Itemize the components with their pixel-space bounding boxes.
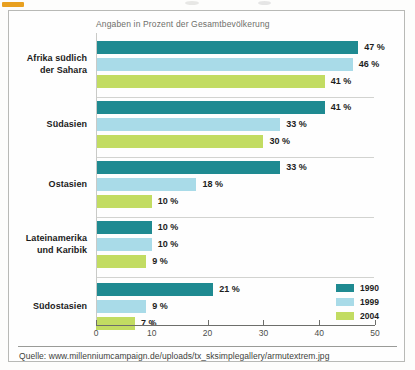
x-axis-tick [96, 320, 97, 325]
group-separator [96, 217, 374, 218]
bar-value-label: 41 % [331, 76, 352, 86]
figure-frame: Angaben in Prozent der Gesamtbevölkerung… [8, 10, 405, 362]
bar-1990 [96, 221, 152, 234]
bar-2004 [96, 135, 263, 148]
scan-artifact-smudge-right [258, 1, 271, 5]
category-label-line: Afrika südlich [9, 53, 87, 65]
group-separator [96, 277, 374, 278]
legend-swatch [336, 312, 354, 320]
bar-value-label: 7 % [141, 318, 157, 328]
bar-1999 [96, 238, 152, 251]
plot-area: Afrika südlichder Sahara47 %46 %41 %Süda… [9, 33, 404, 323]
legend-swatch [336, 298, 354, 306]
bar-line: 47 % [96, 41, 396, 54]
legend-label: 2004 [360, 311, 379, 321]
x-axis-tick-label: 0 [94, 328, 99, 338]
bar-line: 33 % [96, 161, 396, 174]
legend-label: 1990 [360, 283, 379, 293]
group-separator [96, 97, 374, 98]
x-axis-tick-label: 30 [259, 328, 268, 338]
x-axis-tick [208, 320, 209, 325]
x-axis-tick [152, 320, 153, 325]
bar-value-label: 21 % [219, 284, 240, 294]
y-axis-line [96, 33, 97, 325]
bar-1990 [96, 41, 358, 54]
bar-1999 [96, 300, 146, 313]
x-axis-tick [375, 320, 376, 325]
bar-value-label: 46 % [359, 59, 380, 69]
bar-line: 10 % [96, 238, 396, 251]
category-label-line: Südasien [9, 119, 87, 131]
bar-1999 [96, 178, 196, 191]
scan-artifact-smudge-left [185, 1, 199, 5]
bar-value-label: 10 % [158, 222, 179, 232]
bar-value-label: 10 % [158, 196, 179, 206]
category-label: Südostasien [9, 301, 87, 313]
source-divider [18, 346, 397, 347]
category-label-line: und Karibik [9, 245, 87, 257]
bar-1999 [96, 58, 353, 71]
bar-value-label: 47 % [364, 42, 385, 52]
bar-2004 [96, 195, 152, 208]
chart-subtitle: Angaben in Prozent der Gesamtbevölkerung [96, 19, 270, 29]
bar-1990 [96, 101, 325, 114]
legend-label: 1999 [360, 297, 379, 307]
bar-line: 9 % [96, 255, 396, 268]
x-axis-tick [263, 320, 264, 325]
bar-line: 10 % [96, 195, 396, 208]
category-label-line: Lateinamerika [9, 233, 87, 245]
category-label: Afrika südlichder Sahara [9, 53, 87, 76]
x-axis-tick-label: 40 [314, 328, 323, 338]
x-axis-line [96, 325, 375, 326]
bar-value-label: 30 % [269, 136, 290, 146]
bars-wrapper: 41 %33 %30 % [96, 101, 396, 152]
category-label: Südasien [9, 119, 87, 131]
source-caption: Quelle: www.millenniumcampaign.de/upload… [19, 351, 329, 361]
legend-swatch [336, 284, 354, 292]
x-axis-tick-label: 10 [147, 328, 156, 338]
bar-2004 [96, 75, 325, 88]
x-axis-tick-label: 50 [370, 328, 379, 338]
bars-wrapper: 47 %46 %41 % [96, 41, 396, 92]
category-label-line: Südostasien [9, 301, 87, 313]
bar-value-label: 9 % [152, 301, 168, 311]
scan-artifact-orange-mark [2, 2, 24, 7]
bar-line: 10 % [96, 221, 396, 234]
bar-line: 33 % [96, 118, 396, 131]
group-separator [96, 157, 374, 158]
bar-line: 30 % [96, 135, 396, 148]
bar-value-label: 33 % [286, 162, 307, 172]
bar-value-label: 10 % [158, 239, 179, 249]
bar-line: 18 % [96, 178, 396, 191]
bar-value-label: 9 % [152, 256, 168, 266]
x-axis-tick-label: 20 [203, 328, 212, 338]
bar-1990 [96, 161, 280, 174]
bar-2004 [96, 255, 146, 268]
bars-wrapper: 33 %18 %10 % [96, 161, 396, 212]
category-label-line: Ostasien [9, 179, 87, 191]
chart-page: Angaben in Prozent der Gesamtbevölkerung… [0, 0, 415, 370]
x-axis-tick [319, 320, 320, 325]
category-label: Ostasien [9, 179, 87, 191]
category-label: Lateinamerikaund Karibik [9, 233, 87, 256]
bar-value-label: 41 % [331, 102, 352, 112]
bar-value-label: 33 % [286, 119, 307, 129]
bars-wrapper: 10 %10 %9 % [96, 221, 396, 272]
bar-line: 41 % [96, 75, 396, 88]
bar-value-label: 18 % [202, 179, 223, 189]
bar-2004 [96, 317, 135, 330]
bar-line: 46 % [96, 58, 396, 71]
bar-line: 41 % [96, 101, 396, 114]
category-label-line: der Sahara [9, 65, 87, 77]
bar-1999 [96, 118, 280, 131]
bar-1990 [96, 283, 213, 296]
